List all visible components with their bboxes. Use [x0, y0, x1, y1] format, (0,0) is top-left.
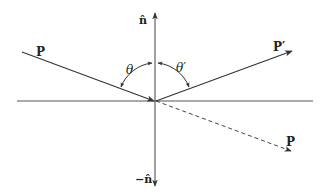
reflection-diagram: P n̂ θ θ′ P′ P −n̂ [0, 0, 328, 193]
theta-prime-label: θ′ [176, 61, 186, 75]
theta-label: θ [126, 63, 134, 77]
normal-up-label: n̂ [139, 14, 147, 27]
reflected-ray [156, 51, 292, 101]
incident-label: P [36, 45, 45, 59]
transmitted-label: P [286, 135, 295, 149]
normal-down-label: −n̂ [135, 173, 152, 186]
reflected-label: P′ [273, 40, 285, 54]
incident-ray [22, 52, 154, 101]
transmitted-ray-dashed [156, 101, 291, 151]
